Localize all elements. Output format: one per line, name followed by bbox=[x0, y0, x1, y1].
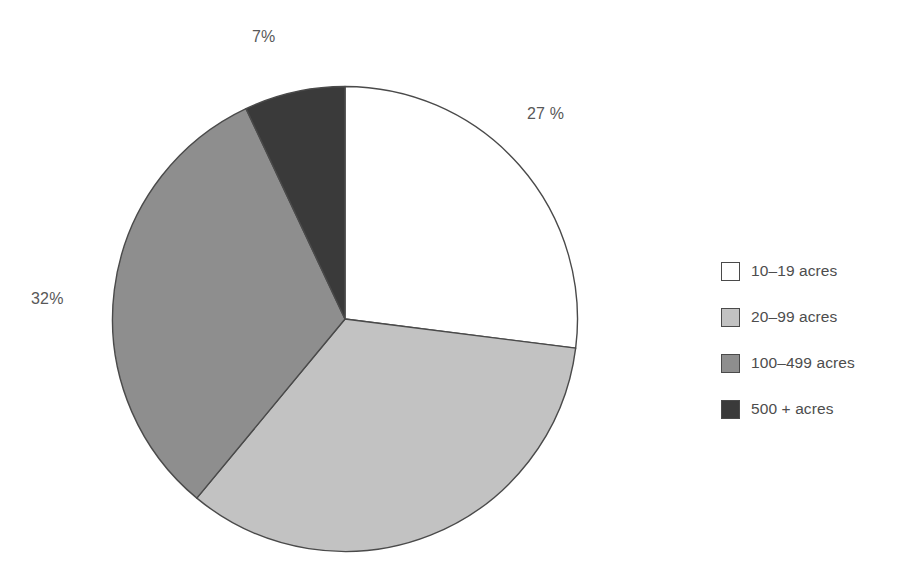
slice-label-10-19-acres: 27 % bbox=[527, 105, 564, 123]
legend-item-label: 20–99 acres bbox=[751, 308, 837, 326]
legend-item-500-plus-acres: 500 + acres bbox=[721, 386, 911, 432]
slice-label-500-plus-acres: 7% bbox=[252, 28, 276, 46]
pie-chart-figure: 7% 27 % 32% 10–19 acres 20–99 acres 100–… bbox=[0, 0, 917, 566]
legend-item-10-19-acres: 10–19 acres bbox=[721, 248, 911, 294]
legend-item-label: 10–19 acres bbox=[751, 262, 837, 280]
legend-item-100-499-acres: 100–499 acres bbox=[721, 340, 911, 386]
legend-item-20-99-acres: 20–99 acres bbox=[721, 294, 911, 340]
legend-swatch-icon bbox=[721, 308, 740, 327]
pie-slice bbox=[345, 87, 578, 349]
pie-slices bbox=[113, 87, 578, 552]
legend-swatch-icon bbox=[721, 354, 740, 373]
legend-swatch-icon bbox=[721, 262, 740, 281]
pie-chart-graphic bbox=[111, 85, 579, 553]
legend-item-label: 500 + acres bbox=[751, 400, 834, 418]
legend-item-label: 100–499 acres bbox=[751, 354, 855, 372]
legend: 10–19 acres 20–99 acres 100–499 acres 50… bbox=[721, 248, 911, 432]
pie-svg bbox=[111, 85, 579, 553]
slice-label-100-499-acres: 32% bbox=[31, 290, 64, 308]
legend-swatch-icon bbox=[721, 400, 740, 419]
